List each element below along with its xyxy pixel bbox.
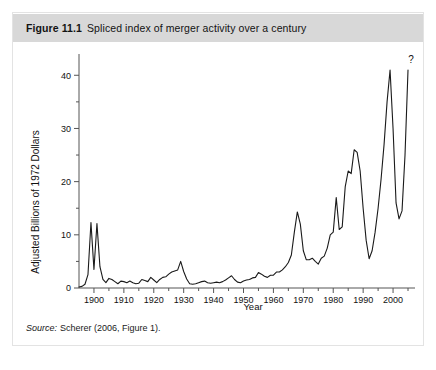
source-text: Scherer (2006, Figure 1). bbox=[60, 323, 161, 333]
source-note: Source:Scherer (2006, Figure 1). bbox=[26, 323, 161, 333]
x-tick-label: 1920 bbox=[144, 295, 164, 305]
x-tick-label: 1960 bbox=[263, 295, 283, 305]
x-tick-label: 1950 bbox=[233, 295, 253, 305]
figure-caption: Figure 11.1Spliced index of merger activ… bbox=[13, 22, 306, 34]
x-axis: 1900191019201930194019501960197019801990… bbox=[79, 288, 415, 305]
y-tick-label: 0 bbox=[66, 283, 71, 293]
y-tick-label: 10 bbox=[61, 230, 71, 240]
y-tick-label: 30 bbox=[61, 124, 71, 134]
x-tick-label: 1940 bbox=[204, 295, 224, 305]
series-line bbox=[79, 70, 408, 287]
x-tick-label: 2000 bbox=[383, 295, 403, 305]
x-tick-label: 1900 bbox=[84, 295, 104, 305]
figure-caption-text: Spliced index of merger activity over a … bbox=[87, 22, 306, 34]
y-axis: 010203040 bbox=[61, 54, 79, 293]
chart-plot-area: Adjusted Billions of 1972 Dollars Year 0… bbox=[13, 42, 423, 317]
y-tick-label: 20 bbox=[61, 177, 71, 187]
figure-header-band: Figure 11.1Spliced index of merger activ… bbox=[13, 14, 423, 42]
merger-activity-line-chart: Adjusted Billions of 1972 Dollars Year 0… bbox=[13, 42, 423, 317]
x-tick-label: 1970 bbox=[293, 295, 313, 305]
y-tick-label: 40 bbox=[61, 71, 71, 81]
x-tick-label: 1980 bbox=[323, 295, 343, 305]
source-label: Source: bbox=[26, 323, 57, 333]
figure-number: Figure 11.1 bbox=[26, 22, 82, 34]
x-tick-label: 1910 bbox=[114, 295, 134, 305]
annotation-group: ? bbox=[408, 54, 414, 65]
x-tick-label: 1990 bbox=[353, 295, 373, 305]
x-tick-label: 1930 bbox=[174, 295, 194, 305]
uncertainty-question-mark: ? bbox=[408, 54, 414, 65]
screenshot-root: Figure 11.1Spliced index of merger activ… bbox=[0, 0, 436, 370]
figure-card: Figure 11.1Spliced index of merger activ… bbox=[12, 12, 424, 346]
data-series-group bbox=[79, 70, 408, 287]
y-axis-title: Adjusted Billions of 1972 Dollars bbox=[30, 130, 41, 273]
